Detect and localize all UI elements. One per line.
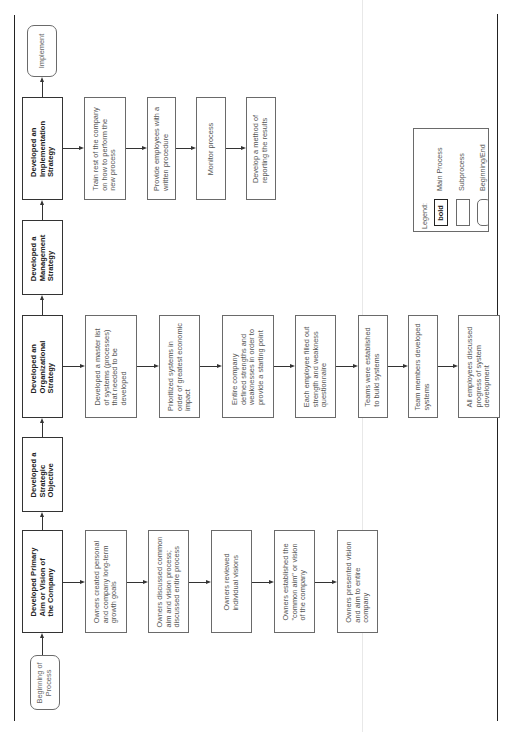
subprocess-discussed-aim: Owners discussed common aim and vision p… bbox=[148, 530, 189, 633]
subprocess-all-employees: All employees discussed progress of syst… bbox=[458, 315, 500, 418]
connector bbox=[176, 148, 191, 149]
arrow-up-icon bbox=[40, 512, 44, 517]
arrow-right-icon bbox=[154, 364, 159, 368]
connector bbox=[42, 636, 43, 655]
legend-label-main: Main Process bbox=[435, 147, 444, 191]
arrow-up-icon bbox=[40, 200, 44, 205]
arrow-right-icon bbox=[143, 580, 148, 584]
organizational-strategy-box: Developed an Organizational Strategy bbox=[22, 315, 63, 418]
arrow-right-icon bbox=[269, 580, 274, 584]
subprocess-text: Entire company defined strengths and wea… bbox=[231, 329, 265, 405]
connector bbox=[42, 203, 43, 220]
subprocess-prioritized: Prioritized systems in order of greatest… bbox=[159, 315, 200, 418]
connector bbox=[137, 366, 154, 367]
arrow-right-icon bbox=[206, 580, 211, 584]
subprocess-text: Monitor process bbox=[207, 122, 216, 175]
subprocess-text: Develop a method of reporting the result… bbox=[252, 114, 269, 182]
beginning-terminal: Beginning of Process bbox=[30, 655, 60, 710]
arrow-right-icon bbox=[332, 580, 337, 584]
legend: Legend: bold Main Process Subprocess Beg… bbox=[413, 128, 489, 232]
connector bbox=[189, 582, 206, 583]
connector bbox=[274, 366, 290, 367]
subprocess-strengths: Entire company defined strengths and wea… bbox=[222, 315, 274, 418]
connector bbox=[42, 298, 43, 315]
subprocess-text: Owners presented vision and aim to entir… bbox=[345, 541, 371, 622]
arrow-right-icon bbox=[353, 364, 358, 368]
subprocess-text: Team members developed systems bbox=[414, 323, 431, 410]
arrow-up-icon bbox=[40, 633, 44, 638]
connector bbox=[42, 515, 43, 530]
subprocess-teams: Teams were established to build systems bbox=[358, 315, 388, 418]
strategic-objective-label: Developed a Strategic Objective bbox=[30, 452, 56, 497]
connector bbox=[126, 148, 142, 149]
connector bbox=[63, 148, 79, 149]
arrow-up-icon bbox=[40, 77, 44, 82]
connector bbox=[315, 582, 332, 583]
arrow-right-icon bbox=[191, 146, 196, 150]
arrow-up-icon bbox=[40, 295, 44, 300]
subprocess-questionnaire: Each employee filled out strength and we… bbox=[295, 315, 336, 418]
arrow-right-icon bbox=[453, 364, 458, 368]
primary-aim-box: Developed Primary Aim or Vision of the C… bbox=[22, 530, 63, 633]
connector bbox=[127, 582, 143, 583]
connector bbox=[42, 80, 43, 97]
connector bbox=[438, 366, 453, 367]
arrow-right-icon bbox=[241, 146, 246, 150]
subprocess-reporting: Develop a method of reporting the result… bbox=[246, 97, 276, 200]
subprocess-common-aim: Owners established the "common aim" or v… bbox=[274, 530, 315, 633]
subprocess-train: Train rest of the company on how to perf… bbox=[84, 97, 126, 200]
subprocess-text: Each employee filled out strength and we… bbox=[303, 326, 329, 407]
subprocess-text: Developed a master list of systems (proc… bbox=[94, 328, 128, 405]
subprocess-growth-goals: Owners created personal and company long… bbox=[85, 530, 127, 633]
legend-title: Legend: bbox=[420, 203, 429, 229]
connector bbox=[200, 366, 217, 367]
subprocess-master-list: Developed a master list of systems (proc… bbox=[85, 315, 137, 418]
subprocess-team-members: Team members developed systems bbox=[408, 315, 438, 418]
connector bbox=[42, 421, 43, 437]
connector bbox=[388, 366, 403, 367]
implementation-strategy-box: Developed an Implementation Strategy bbox=[22, 97, 63, 200]
subprocess-text: Provide employees with a written procedu… bbox=[153, 106, 170, 190]
legend-swatch-sub bbox=[456, 199, 470, 226]
subprocess-text: Owners established the "common aim" or v… bbox=[282, 543, 308, 620]
primary-aim-label: Developed Primary Aim or Vision of the C… bbox=[30, 547, 56, 616]
legend-label-sub: Subprocess bbox=[457, 153, 466, 191]
legend-swatch-main: bold bbox=[434, 199, 448, 226]
connector bbox=[226, 148, 241, 149]
subprocess-text: Owners created personal and company long… bbox=[93, 540, 119, 623]
arrow-right-icon bbox=[80, 580, 85, 584]
connector bbox=[63, 582, 80, 583]
legend-swatch-terminal bbox=[477, 199, 489, 226]
beginning-label: Beginning of Process bbox=[36, 662, 53, 703]
subprocess-monitor: Monitor process bbox=[196, 97, 226, 200]
subprocess-text: Teams were established to build systems bbox=[364, 327, 381, 406]
arrow-right-icon bbox=[217, 364, 222, 368]
subprocess-text: Owners reviewed individual visions bbox=[223, 553, 240, 610]
management-strategy-label: Developed a Management Strategy bbox=[30, 234, 56, 280]
arrow-right-icon bbox=[403, 364, 408, 368]
arrow-right-icon bbox=[80, 364, 85, 368]
legend-swatch-text: bold bbox=[437, 205, 446, 221]
frame-line-left bbox=[14, 15, 15, 721]
arrow-up-icon bbox=[40, 418, 44, 423]
arrow-right-icon bbox=[290, 364, 295, 368]
strategic-objective-box: Developed a Strategic Objective bbox=[22, 437, 63, 512]
connector bbox=[336, 366, 353, 367]
subprocess-text: All employees discussed progress of syst… bbox=[466, 326, 492, 407]
subprocess-text: Owners discussed common aim and vision p… bbox=[156, 536, 182, 627]
subprocess-text: Train rest of the company on how to perf… bbox=[92, 107, 118, 191]
arrow-right-icon bbox=[79, 146, 84, 150]
legend-label-terminal: Beginning/End bbox=[478, 144, 487, 191]
implement-terminal: Implement bbox=[27, 25, 57, 77]
connector bbox=[63, 366, 80, 367]
subprocess-presented-vision: Owners presented vision and aim to entir… bbox=[337, 530, 378, 633]
organizational-strategy-label: Developed an Organizational Strategy bbox=[30, 340, 56, 393]
arrow-right-icon bbox=[142, 146, 147, 150]
subprocess-text: Prioritized systems in order of greatest… bbox=[167, 323, 193, 411]
subprocess-provide-procedure: Provide employees with a written procedu… bbox=[147, 97, 176, 200]
connector bbox=[252, 582, 269, 583]
implementation-strategy-label: Developed an Implementation Strategy bbox=[30, 120, 56, 176]
implement-label: Implement bbox=[38, 34, 47, 69]
subprocess-reviewed-visions: Owners reviewed individual visions bbox=[211, 530, 252, 633]
management-strategy-box: Developed a Management Strategy bbox=[22, 220, 63, 295]
